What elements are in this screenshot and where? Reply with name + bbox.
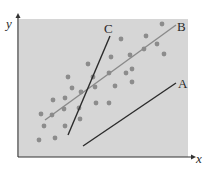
data-point (155, 42, 160, 47)
line-label-b: B (177, 19, 186, 34)
data-point (86, 62, 91, 67)
data-point (94, 101, 99, 106)
data-point (130, 80, 135, 85)
line-label-a: A (178, 76, 188, 91)
data-point (63, 124, 68, 129)
data-point (39, 112, 44, 117)
data-point (113, 84, 118, 89)
plot-area (19, 19, 188, 157)
data-point (37, 138, 42, 143)
data-point (78, 117, 83, 122)
data-point (160, 22, 165, 27)
data-point (130, 67, 135, 72)
data-point (162, 52, 167, 57)
y-axis-label: y (4, 16, 12, 31)
data-point (107, 101, 112, 106)
data-point (63, 96, 68, 101)
data-point (70, 86, 75, 91)
data-point (42, 124, 47, 129)
data-point (53, 136, 58, 141)
data-point (109, 55, 114, 60)
line-label-c: C (104, 21, 113, 36)
data-point (66, 75, 71, 80)
data-point (144, 34, 149, 39)
data-point (119, 37, 124, 42)
scatter-diagram: ABC x y (0, 0, 211, 171)
y-axis-arrow-icon (16, 13, 21, 18)
x-axis-label: x (195, 151, 202, 166)
data-point (51, 98, 56, 103)
data-point (124, 71, 129, 76)
